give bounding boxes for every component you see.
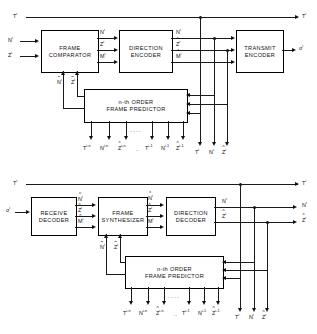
block-frame-comparator[interactable]: FRAME COMPARATOR <box>41 30 99 73</box>
encoder-tap-line-5 <box>168 121 169 137</box>
encoder-dir-out-2-line <box>171 50 232 51</box>
encoder-tap-line-1 <box>91 121 92 137</box>
encoder-top-input-label: Ti <box>13 14 17 19</box>
decoder-tap-label-4: Ti-1 <box>182 311 190 316</box>
decoder-syn-out-2-arrow <box>160 214 164 218</box>
decoder-top-output-label: Ti <box>302 181 306 186</box>
decoder-syn-out-3-arrow <box>160 225 164 229</box>
decoder-tap-arrow-5 <box>202 301 206 305</box>
decoder-rcv-out-2-label: Zi <box>78 208 82 213</box>
decoder-predictor-feed-2 <box>226 270 267 271</box>
decoder-dir-out-2-arrow <box>293 220 297 224</box>
encoder-predictor-feed-1-arrow <box>186 93 190 97</box>
encoder-bus-z-label: Zi <box>222 150 226 155</box>
decoder-tap-label-3: Zi-n <box>156 311 164 316</box>
decoder-rcv-out-3-line <box>75 227 93 228</box>
encoder-tap-label-5: Ni-1 <box>161 146 169 151</box>
encoder-dir-out-1-line <box>171 38 232 39</box>
decoder-tap-ellipsis: ···· <box>168 294 180 300</box>
decoder-feedback-z-arrow <box>118 234 122 238</box>
block-transmit-encoder[interactable]: TRANSMIT ENCODER <box>236 30 284 73</box>
decoder-rcv-out-2-arrow <box>92 214 96 218</box>
encoder-tap-label-6: Zi-1 <box>176 146 184 151</box>
decoder-predictor-feed-2-arrow <box>222 268 226 272</box>
decoder-syn-out-1-label: Ni <box>148 196 153 201</box>
decoder-output-n-label: Ni <box>302 203 307 208</box>
encoder-feedback-n-arrow <box>61 71 65 75</box>
encoder-tap-arrow-6 <box>181 136 185 140</box>
decoder-bus-z-label: Zi <box>262 315 266 320</box>
encoder-tap-ellipsis: ···· <box>130 128 142 134</box>
block-direction-encoder-line2: ENCODER <box>131 52 161 59</box>
block-receive-decoder-line1: RECEIVE <box>40 210 67 217</box>
decoder-tap-label-2: Ni-n <box>139 311 147 316</box>
encoder-dir-out-3-arrow <box>231 60 235 64</box>
block-encoder-frame-predictor[interactable]: n-th ORDER FRAME PREDICTOR <box>84 89 188 123</box>
block-decoder-frame-predictor-line2: FRAME PREDICTOR <box>145 273 204 280</box>
encoder-bus-t-arrow <box>198 142 202 146</box>
decoder-dir-out-1-arrow <box>293 205 297 209</box>
encoder-sigma-out-arrow <box>292 48 296 52</box>
encoder-tap-gap: .. <box>136 147 139 152</box>
decoder-bus-t-label: Ti <box>235 315 239 320</box>
encoder-bus-n-label: Ni <box>209 150 214 155</box>
block-direction-decoder-line2: DECODER <box>176 217 206 224</box>
decoder-feedback-z-label: Zi <box>114 245 118 250</box>
encoder-tap-label-3: Zi-n <box>118 146 126 151</box>
encoder-dir-out-1-arrow <box>231 36 235 40</box>
encoder-predictor-feed-2-arrow <box>186 102 190 106</box>
encoder-cmp-out-1-label: Ni <box>100 30 105 35</box>
encoder-cmp-out-2-line <box>97 50 115 51</box>
decoder-tap-arrow-1 <box>129 301 133 305</box>
decoder-feedback-z-vertical <box>120 234 121 262</box>
encoder-feedback-z-horizontal <box>77 96 85 97</box>
block-direction-decoder-line1: DIRECTION <box>174 210 208 217</box>
encoder-feedback-z-arrow <box>75 71 79 75</box>
encoder-top-output-label: Ti <box>302 14 306 19</box>
decoder-rcv-out-1-label: Ni <box>78 197 83 202</box>
encoder-feedback-z-label: Zi <box>71 80 75 85</box>
decoder-predictor-feed-1 <box>226 262 254 263</box>
encoder-cmp-out-2-label: Zi <box>100 42 104 47</box>
block-encoder-frame-predictor-line1: n-th ORDER <box>119 99 154 106</box>
decoder-tap-arrow-3 <box>162 301 166 305</box>
decoder-dir-out-1-label: Ni <box>222 199 227 204</box>
encoder-sigma-out-label: σi <box>299 46 303 51</box>
encoder-predictor-feed-1 <box>190 95 214 96</box>
encoder-predictor-feed-3-arrow <box>186 111 190 115</box>
encoder-tap-arrow-3 <box>124 136 128 140</box>
encoder-tap-label-2: Ni-n <box>100 146 108 151</box>
encoder-feedback-n-horizontal <box>63 108 85 109</box>
block-frame-synthesizer[interactable]: FRAME SYNTHESIZER <box>98 197 148 236</box>
decoder-feedback-z-horizontal <box>120 262 126 263</box>
decoder-output-z-label: Zi <box>302 218 306 223</box>
decoder-bus-t-vertical <box>240 184 241 309</box>
block-direction-encoder[interactable]: DIRECTION ENCODER <box>119 30 173 73</box>
decoder-feedback-n-label: Ni <box>100 245 105 250</box>
encoder-cmp-out-3-arrow <box>114 60 118 64</box>
block-receive-decoder[interactable]: RECEIVE DECODER <box>31 197 77 236</box>
decoder-tap-label-5: Ni-1 <box>198 311 206 316</box>
decoder-tap-line-5 <box>204 287 205 302</box>
block-decoder-frame-predictor[interactable]: n-th ORDER FRAME PREDICTOR <box>125 256 224 289</box>
decoder-top-bus <box>26 184 298 185</box>
encoder-cmp-out-2-arrow <box>114 48 118 52</box>
encoder-tap-arrow-1 <box>89 136 93 140</box>
decoder-rcv-out-2-line <box>75 216 93 217</box>
decoder-predictor-feed-3-arrow <box>222 276 226 280</box>
block-direction-decoder[interactable]: DIRECTION DECODER <box>166 197 216 236</box>
decoder-dir-out-2-label: Zi <box>222 214 226 219</box>
encoder-bus-t-label: Ti <box>195 150 199 155</box>
decoder-bus-z-vertical <box>267 222 268 309</box>
decoder-tap-arrow-4 <box>187 301 191 305</box>
encoder-tap-line-2 <box>109 121 110 137</box>
decoder-syn-out-2-line <box>146 216 161 217</box>
encoder-cmp-out-1-arrow <box>114 36 118 40</box>
encoder-bus-z-vertical <box>227 50 228 143</box>
decoder-syn-out-3-line <box>146 227 161 228</box>
encoder-tap-label-4: Ti-1 <box>145 146 153 151</box>
decoder-bus-t-arrow <box>238 308 242 312</box>
encoder-dir-out-2-arrow <box>231 48 235 52</box>
encoder-dir-out-2-label: Zi <box>176 42 180 47</box>
encoder-bus-z-arrow <box>225 142 229 146</box>
